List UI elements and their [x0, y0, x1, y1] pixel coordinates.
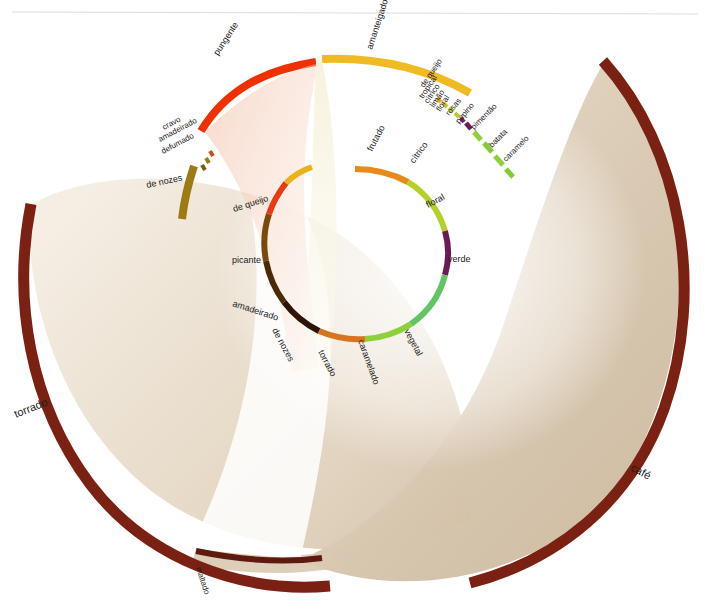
middle-arc-amadeirado[interactable] [206, 158, 209, 163]
top-divider [12, 12, 698, 14]
label-inner-picante: picante [232, 255, 261, 265]
label-mid-amanteigado: amanteigado [364, 0, 390, 51]
label-mid-pungente: pungente [211, 20, 240, 57]
label-inner-verde: verde [448, 254, 471, 264]
flavour-wheel-svg: torrado café maltado pungente cravo amad… [0, 0, 710, 615]
inner-arc-floral[interactable] [445, 231, 448, 275]
middle-arc-cravo[interactable] [210, 151, 213, 156]
outer-ribbon-group [29, 62, 679, 581]
middle-arc-defumado[interactable] [202, 165, 205, 170]
label-outer-torrado: torrado [12, 396, 49, 420]
chord-diagram-canvas: torrado café maltado pungente cravo amad… [0, 0, 710, 615]
